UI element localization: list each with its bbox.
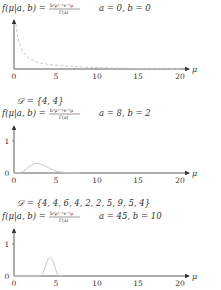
y-tick-label-1: 1	[5, 240, 10, 249]
x-axis-label: μ	[192, 272, 197, 281]
svg-text:0: 0	[12, 279, 17, 288]
dataset-label: 𝒟 = {4, 4}	[17, 96, 64, 106]
svg-text:15: 15	[133, 176, 143, 185]
formula-denominator: Γ(a)	[59, 218, 69, 223]
svg-text:20: 20	[175, 279, 185, 288]
formula-lhs: f(μ|a, b) =	[1, 211, 46, 222]
posterior-curve	[14, 163, 80, 173]
svg-text:10: 10	[92, 72, 102, 81]
panel-1: f(μ|a, b) = bᵃμᵃ⁻¹e⁻ᵇμ Γ(a) a = 0, b = 0…	[1, 3, 197, 81]
panel-3: 𝒟 = {4, 4, 6, 4, 2, 2, 5, 9, 5, 4} f(μ|a…	[1, 198, 197, 288]
x-tick-labels: 0 5 10 15 20	[12, 72, 185, 81]
svg-text:20: 20	[175, 176, 185, 185]
y-tick-label-0: 0	[5, 272, 10, 281]
formula-denominator: Γ(a)	[59, 115, 69, 120]
svg-text:5: 5	[54, 176, 59, 185]
svg-text:10: 10	[92, 176, 102, 185]
params-label: a = 0, b = 0	[99, 3, 151, 13]
svg-text:10: 10	[92, 279, 102, 288]
params-label: a = 8, b = 2	[99, 108, 151, 118]
y-tick-label-0: 0	[5, 169, 10, 178]
svg-text:20: 20	[175, 72, 185, 81]
formula-numerator: bᵃμᵃ⁻¹e⁻ᵇμ	[50, 211, 73, 216]
formula-lhs: f(μ|a, b) =	[1, 108, 46, 119]
y-tick-label-1: 1	[5, 137, 10, 146]
formula-lhs: f(μ|a, b) =	[1, 3, 46, 14]
svg-text:0: 0	[12, 72, 17, 81]
x-axis-label: μ	[192, 169, 197, 178]
prior-curve	[16, 24, 182, 69]
x-tick-labels: 0 5 10 15 20	[12, 176, 185, 185]
formula-denominator: Γ(a)	[59, 10, 69, 15]
svg-text:15: 15	[133, 279, 143, 288]
posterior-curve	[14, 258, 63, 277]
chart-figure: f(μ|a, b) = bᵃμᵃ⁻¹e⁻ᵇμ Γ(a) a = 0, b = 0…	[0, 0, 221, 290]
formula-numerator: bᵃμᵃ⁻¹e⁻ᵇμ	[50, 108, 73, 113]
dataset-label: 𝒟 = {4, 4, 6, 4, 2, 2, 5, 9, 5, 4}	[17, 198, 150, 208]
params-label: a = 45, b = 10	[99, 211, 162, 221]
formula-numerator: bᵃμᵃ⁻¹e⁻ᵇμ	[50, 3, 73, 8]
svg-text:5: 5	[54, 72, 59, 81]
x-axis-label: μ	[192, 65, 197, 74]
svg-text:15: 15	[133, 72, 143, 81]
x-tick-labels: 0 5 10 15 20	[12, 279, 185, 288]
svg-text:0: 0	[12, 176, 17, 185]
panel-2: 𝒟 = {4, 4} f(μ|a, b) = bᵃμᵃ⁻¹e⁻ᵇμ Γ(a) a…	[1, 96, 197, 185]
svg-text:5: 5	[54, 279, 59, 288]
